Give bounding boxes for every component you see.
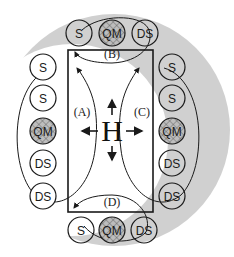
right-player-1: S (168, 61, 176, 75)
bottom-player-1: S (77, 224, 85, 238)
center-h-label: H (101, 114, 123, 147)
zone-d-label: (D) (104, 195, 121, 209)
zone-b-label: (B) (104, 47, 120, 61)
right-player-5: DS (164, 190, 181, 204)
zone-a-label: (A) (74, 105, 91, 119)
left-player-4: DS (35, 157, 52, 171)
left-player-5: DS (35, 190, 52, 204)
bottom-player-2: QM (102, 224, 121, 238)
bottom-player-3: DS (136, 224, 153, 238)
right-player-3: QM (162, 125, 181, 139)
top-player-1: S (75, 27, 83, 41)
diagram-svg: H (A) (B) (C) (D) S QM DS S QM DS S S QM… (0, 0, 234, 257)
top-player-2: QM (102, 27, 121, 41)
right-player-2: S (168, 92, 176, 106)
left-player-2: S (39, 92, 47, 106)
diagram-canvas: H (A) (B) (C) (D) S QM DS S QM DS S S QM… (0, 0, 234, 257)
right-player-4: DS (164, 157, 181, 171)
zone-c-label: (C) (134, 105, 150, 119)
left-player-1: S (39, 61, 47, 75)
top-player-3: DS (137, 27, 154, 41)
left-player-3: QM (33, 125, 52, 139)
